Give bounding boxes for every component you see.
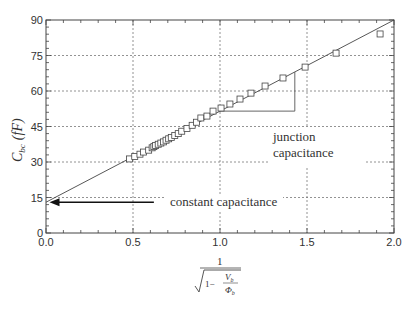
- xlabel-numerator: 1: [217, 255, 223, 267]
- xlabel-phi-sub: b: [232, 290, 235, 296]
- data-point-marker: [262, 83, 268, 89]
- x-axis-label: 1 1− Vb Φb: [195, 255, 241, 296]
- y-tick-label: 45: [31, 121, 43, 133]
- svg-text:Φb: Φb: [225, 285, 235, 296]
- ylabel-unit: (fF): [10, 118, 26, 140]
- data-point-marker: [210, 108, 216, 114]
- y-axis-label: Cbc(fF): [10, 118, 27, 162]
- x-tick-label: 0.5: [125, 236, 140, 248]
- x-tick-label: 1.0: [212, 236, 227, 248]
- data-point-marker: [218, 105, 224, 111]
- y-tick-label: 60: [31, 85, 43, 97]
- ylabel-sub: bc: [17, 144, 27, 153]
- xlabel-one-minus: 1−: [205, 279, 215, 289]
- x-tick-label: 1.5: [299, 236, 314, 248]
- data-point-marker: [280, 75, 286, 81]
- svg-text:Cbc(fF): Cbc(fF): [10, 118, 27, 162]
- annotation-junction-line1: junction: [272, 129, 316, 144]
- sqrt-radical-icon: [195, 270, 241, 292]
- data-point-marker: [248, 90, 254, 96]
- x-tick-label: 2.0: [386, 236, 401, 248]
- constant-arrow: [49, 198, 153, 206]
- annotation-junction-line2: capacitance: [273, 145, 334, 160]
- data-point-marker: [237, 96, 243, 102]
- chart: 0.00.51.01.52.00153045607590 junction ca…: [0, 0, 411, 311]
- data-point-marker: [204, 113, 210, 119]
- y-tick-label: 15: [31, 192, 43, 204]
- data-point-marker: [333, 50, 339, 56]
- annotation-constant: constant capacitance: [166, 194, 283, 210]
- data-point-marker: [227, 101, 233, 107]
- y-tick-label: 75: [31, 50, 43, 62]
- annotation-junction: junction capacitance: [268, 127, 364, 167]
- y-tick-label: 30: [31, 156, 43, 168]
- data-point-marker: [302, 64, 308, 70]
- svg-text:Vb: Vb: [225, 272, 234, 283]
- annotation-constant-text: constant capacitance: [170, 194, 277, 209]
- data-point-marker: [198, 115, 204, 121]
- data-point-marker: [377, 31, 383, 37]
- y-tick-label: 90: [31, 14, 43, 26]
- y-tick-label: 0: [37, 227, 43, 239]
- xlabel-v-sub: b: [231, 277, 234, 283]
